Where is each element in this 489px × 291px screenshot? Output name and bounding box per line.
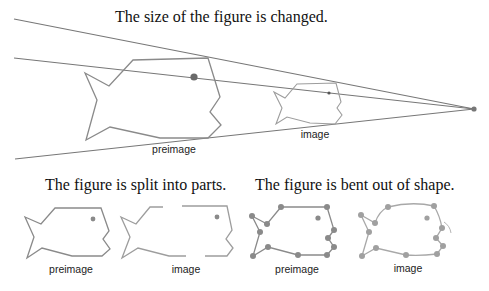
split-image-left-part [121,207,186,258]
bent-image-arc [444,222,451,233]
bent-caption: The figure is bent out of shape. [255,176,455,194]
split-preimage-eye [91,217,96,222]
bent-preimage-eye [315,215,320,220]
ray-bottom [15,109,474,159]
split-preimage-fish [25,208,110,258]
split-image-eye [215,215,220,220]
split-image-label: image [172,263,201,275]
image-eye [327,91,330,94]
dilation-caption: The size of the figure is changed. [115,8,328,26]
preimage-eye [190,73,197,80]
dilation-rays [14,19,474,159]
dilation-preimage-fish [85,58,221,140]
bent-preimage-label: preimage [275,263,319,275]
ray-top [14,19,474,109]
split-caption: The figure is split into parts. [45,176,226,194]
diagram-canvas [0,0,489,291]
dilation-image-fish [274,83,342,124]
bent-image-fish [358,203,451,259]
dilation-image-label: image [301,128,330,140]
bent-image-eye [424,215,429,220]
bent-preimage-fish [249,204,337,259]
split-preimage-label: preimage [49,263,93,275]
dilation-preimage-label: preimage [152,143,196,155]
center-of-dilation-point [471,106,476,111]
ray-middle [14,58,474,109]
split-image-right-part [182,206,233,256]
bent-image-label: image [394,262,423,274]
